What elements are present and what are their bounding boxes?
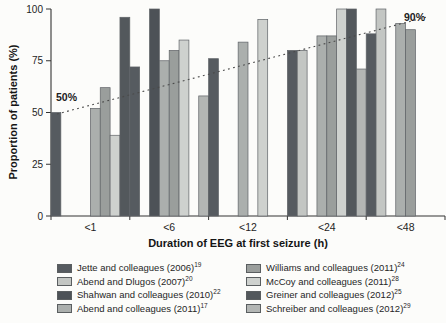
bar-lt6-study4 bbox=[169, 50, 179, 216]
legend-label: Shahwan and colleagues (2010)22 bbox=[77, 289, 221, 301]
bar-lt48-study1 bbox=[376, 9, 386, 216]
legend-reference-number: 24 bbox=[397, 261, 404, 268]
bar-lt48-study4 bbox=[406, 30, 416, 216]
legend-reference-number: 28 bbox=[392, 274, 399, 281]
y-axis-title: Proportion of patients (%) bbox=[7, 2, 21, 222]
legend-label: Abend and colleagues (2011)17 bbox=[77, 303, 208, 315]
legend-item-study4: Williams and colleagues (2011)24 bbox=[246, 262, 405, 274]
legend: Jette and colleagues (2006)19Abend and D… bbox=[0, 256, 446, 323]
legend-label: Schreiber and colleagues (2012)29 bbox=[266, 303, 411, 315]
legend-swatch bbox=[57, 264, 72, 273]
legend-item-study3: Abend and colleagues (2011)17 bbox=[57, 303, 208, 315]
bar-lt6-study2 bbox=[150, 9, 160, 216]
y-tick-label: 75 bbox=[32, 55, 44, 66]
bar-lt48-study0 bbox=[366, 34, 376, 216]
bar-lt12-study0 bbox=[209, 59, 219, 216]
x-tick-label: <12 bbox=[239, 221, 257, 233]
bar-lt24-study1 bbox=[297, 50, 307, 216]
bar-lt1-study5 bbox=[110, 135, 120, 216]
bar-lt1-study3 bbox=[90, 108, 100, 216]
bar-lt24-study6 bbox=[347, 9, 357, 216]
legend-reference-number: 25 bbox=[394, 288, 401, 295]
legend-item-study0: Jette and colleagues (2006)19 bbox=[57, 262, 201, 274]
x-tick-label: <48 bbox=[397, 221, 415, 233]
x-tick-label: <6 bbox=[163, 221, 175, 233]
eeg-first-seizure-bar-chart: 0255075100<1<6<12<24<4850%90% Proportion… bbox=[0, 0, 446, 323]
bar-lt6-study0 bbox=[130, 67, 140, 216]
x-tick-label: <1 bbox=[84, 221, 96, 233]
bar-lt48-study3 bbox=[396, 23, 406, 216]
legend-reference-number: 20 bbox=[185, 274, 192, 281]
bar-lt24-study0 bbox=[287, 50, 297, 216]
y-tick-label: 0 bbox=[37, 211, 43, 222]
x-axis-title: Duration of EEG at first seizure (h) bbox=[78, 237, 398, 251]
bar-lt1-study0 bbox=[51, 113, 61, 217]
legend-label: Greiner and colleagues (2012)25 bbox=[266, 289, 402, 301]
x-tick-label: <24 bbox=[318, 221, 336, 233]
legend-reference-number: 29 bbox=[403, 301, 410, 308]
legend-label: Williams and colleagues (2011)24 bbox=[266, 262, 405, 274]
legend-label: Jette and colleagues (2006)19 bbox=[77, 262, 201, 274]
legend-swatch bbox=[246, 291, 261, 300]
y-tick-label: 100 bbox=[26, 4, 43, 15]
legend-item-study6: Greiner and colleagues (2012)25 bbox=[246, 289, 402, 301]
legend-label: Abend and Dlugos (2007)20 bbox=[77, 276, 193, 288]
legend-swatch bbox=[57, 291, 72, 300]
legend-item-study2: Shahwan and colleagues (2010)22 bbox=[57, 289, 221, 301]
trend-start-label: 50% bbox=[56, 91, 78, 103]
bar-lt24-study3 bbox=[317, 36, 327, 216]
bar-lt24-study7 bbox=[356, 69, 366, 216]
legend-reference-number: 22 bbox=[213, 288, 220, 295]
bar-lt12-study5 bbox=[258, 19, 268, 216]
legend-item-study5: McCoy and colleagues (2011)28 bbox=[246, 276, 399, 288]
chart-plot-area: 0255075100<1<6<12<24<4850%90% bbox=[0, 0, 446, 256]
trend-end-label: 90% bbox=[404, 11, 426, 23]
bar-lt1-study4 bbox=[100, 88, 110, 216]
legend-item-study7: Schreiber and colleagues (2012)29 bbox=[246, 303, 411, 315]
legend-swatch bbox=[246, 264, 261, 273]
legend-reference-number: 17 bbox=[200, 301, 207, 308]
legend-label: McCoy and colleagues (2011)28 bbox=[266, 276, 399, 288]
bar-lt6-study5 bbox=[179, 40, 189, 216]
bar-lt24-study4 bbox=[327, 36, 337, 216]
legend-reference-number: 19 bbox=[194, 261, 201, 268]
bar-lt1-study6 bbox=[120, 17, 130, 216]
legend-swatch bbox=[57, 277, 72, 286]
bar-lt6-study3 bbox=[159, 61, 169, 216]
y-tick-label: 50 bbox=[32, 107, 44, 118]
bar-lt12-study3 bbox=[238, 42, 248, 216]
bar-lt6-study7 bbox=[199, 96, 209, 216]
legend-swatch bbox=[57, 304, 72, 313]
legend-item-study1: Abend and Dlugos (2007)20 bbox=[57, 276, 193, 288]
legend-swatch bbox=[246, 277, 261, 286]
bar-lt24-study5 bbox=[337, 9, 347, 216]
legend-swatch bbox=[246, 304, 261, 313]
y-tick-label: 25 bbox=[32, 159, 44, 170]
